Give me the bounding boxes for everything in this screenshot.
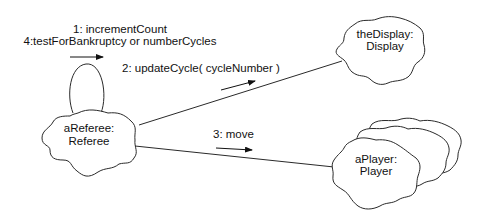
message-1-label: 1: incrementCount bbox=[73, 23, 168, 35]
message-3-label: 3: move bbox=[213, 128, 254, 140]
display-class-name: Display bbox=[366, 40, 404, 52]
object-player[interactable]: aPlayer: Player bbox=[332, 118, 461, 209]
object-referee[interactable]: aReferee: Referee bbox=[42, 110, 136, 176]
message-2-arrow-icon bbox=[221, 81, 255, 90]
self-loop-link bbox=[70, 64, 104, 113]
display-object-name: theDisplay: bbox=[357, 28, 414, 40]
referee-class-name: Referee bbox=[69, 135, 110, 147]
message-3-arrow-icon bbox=[216, 148, 252, 150]
player-class-name: Player bbox=[360, 165, 393, 177]
player-object-name: aPlayer: bbox=[355, 153, 397, 165]
referee-object-name: aReferee: bbox=[64, 122, 115, 134]
message-2-label: 2: updateCycle( cycleNumber ) bbox=[122, 62, 280, 74]
object-display[interactable]: theDisplay: Display bbox=[336, 17, 425, 85]
collaboration-diagram: 1: incrementCount 4:testForBankruptcy or… bbox=[0, 0, 482, 219]
message-4-label: 4:testForBankruptcy or numberCycles bbox=[23, 35, 216, 47]
